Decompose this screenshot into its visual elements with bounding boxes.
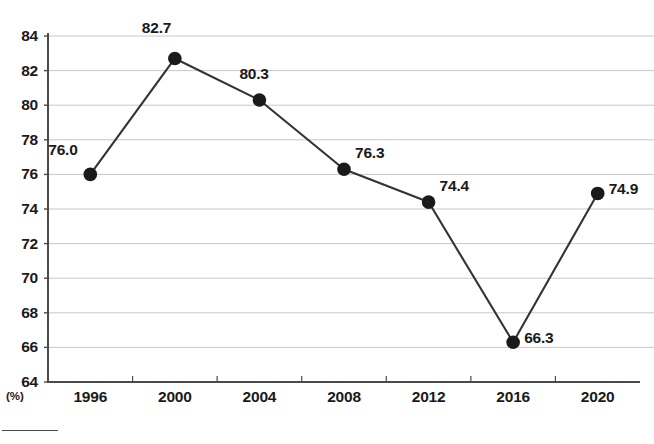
y-axis-tick-label: 82 [4, 63, 38, 79]
y-axis-tick-label: 64 [4, 374, 38, 390]
data-series-line [90, 58, 597, 342]
x-axis-tick-label: 2008 [299, 389, 389, 405]
data-point-value-label: 76.3 [355, 145, 384, 161]
data-point-value-label: 74.9 [609, 181, 638, 197]
y-axis-tick-label: 76 [4, 166, 38, 182]
gridline-group [48, 36, 654, 382]
y-axis-tick-label: 74 [4, 201, 38, 217]
y-axis-tick-label: 80 [4, 97, 38, 113]
x-axis-tick-label: 2012 [384, 389, 474, 405]
data-point-value-label: 66.3 [524, 330, 553, 346]
data-point-value-label: 80.3 [239, 66, 268, 82]
x-axis-tick-label: 2000 [130, 389, 220, 405]
y-axis-tick-label: 72 [4, 236, 38, 252]
y-axis-tick-label: 68 [4, 305, 38, 321]
y-axis-tick-label: 78 [4, 132, 38, 148]
x-axis-tick-label: 2020 [553, 389, 643, 405]
x-axis-tick-label: 2004 [214, 389, 304, 405]
x-axis-tick-label: 1996 [45, 389, 135, 405]
data-point-value-label: 74.4 [440, 178, 469, 194]
y-axis-unit-label: (%) [6, 391, 24, 403]
data-point-marker-group [83, 52, 604, 349]
y-axis-tick-label: 84 [4, 28, 38, 44]
footnote-separator-rule [2, 430, 58, 431]
chart-plot-area [0, 0, 654, 444]
y-axis-tick-label: 66 [4, 339, 38, 355]
data-point-value-label: 82.7 [142, 20, 171, 36]
x-axis-tick-label: 2016 [468, 389, 558, 405]
line-chart-figure: 8482807876747270686664 19962000200420082… [0, 0, 654, 444]
data-point-value-label: 76.0 [48, 142, 77, 158]
y-axis-tick-label: 70 [4, 270, 38, 286]
